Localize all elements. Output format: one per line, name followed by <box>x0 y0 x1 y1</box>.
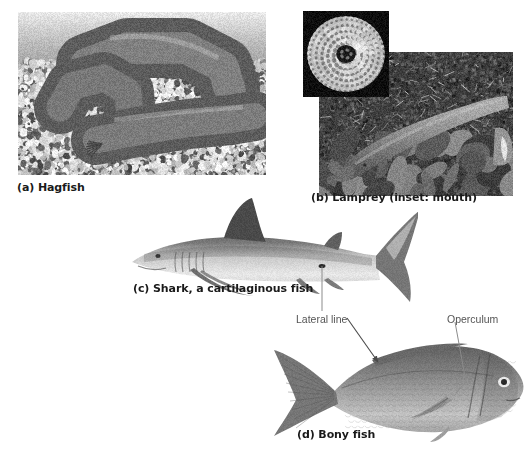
fish-diversity-figure: (a) Hagfish (b) Lamprey (inset: mouth) (… <box>0 0 529 458</box>
bony-fish-photo <box>268 332 526 442</box>
bony-fish-caption: (d) Bony fish <box>297 428 375 441</box>
operculum-label: Operculum <box>447 313 498 325</box>
hagfish-caption: (a) Hagfish <box>17 181 85 194</box>
shark-caption: (c) Shark, a cartilaginous fish <box>133 282 313 295</box>
hagfish-photo <box>18 12 266 175</box>
lateral-line-label: Lateral line <box>296 313 347 325</box>
lamprey-mouth-inset-photo <box>303 11 389 97</box>
